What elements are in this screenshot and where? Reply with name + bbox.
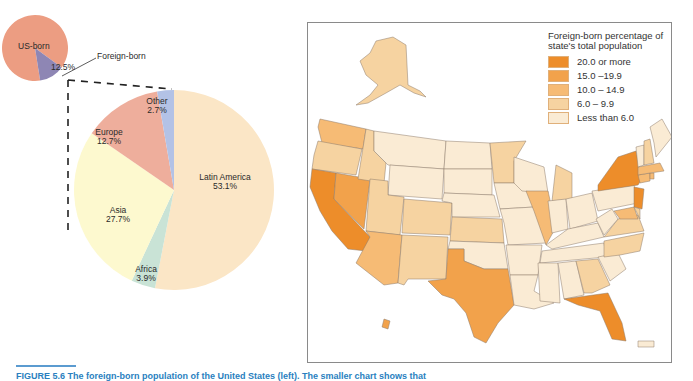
slice-value-latin-america: 53.1%: [213, 181, 238, 191]
legend-swatch: [548, 112, 569, 124]
legend-title: Foreign-born percentage of state's total…: [548, 31, 668, 51]
state-wyoming: [388, 165, 444, 199]
state-rhode-island: [650, 173, 654, 179]
state-alaska: [356, 37, 426, 105]
state-arkansas: [506, 245, 542, 275]
legend-item-15-0-19-9: 15.0 –19.9: [548, 69, 668, 82]
legend-item-10-0-14-9: 10.0 – 14.9: [548, 83, 668, 96]
slice-value-europe: 12.7%: [97, 136, 122, 146]
caption-rule: [16, 365, 76, 367]
state-north-carolina: [604, 233, 644, 257]
state-michigan: [552, 165, 572, 201]
pie-charts: Foreign-born US-born 12.5% Latin America…: [0, 0, 300, 330]
big-pie-chart: [74, 90, 274, 290]
slice-value-other: 2.7%: [147, 105, 167, 115]
state-new-mexico: [398, 235, 448, 285]
map-legend: Foreign-born percentage of state's total…: [548, 31, 668, 125]
state-colorado: [402, 199, 452, 235]
legend-label: Less than 6.0: [577, 112, 634, 123]
state-hawaii: [382, 319, 390, 329]
figure-caption: FIGURE 5.6 The foreign-born population o…: [16, 371, 426, 381]
choropleth-map: Foreign-born percentage of state's total…: [307, 22, 672, 363]
legend-item-less-than-6-0: Less than 6.0: [548, 111, 668, 124]
state-kansas: [450, 217, 504, 243]
legend-swatch: [548, 70, 569, 82]
state-new-jersey: [634, 187, 644, 209]
legend-label: 6.0 – 9.9: [577, 98, 614, 109]
state-maryland: [614, 207, 638, 219]
state-ohio: [566, 193, 598, 229]
state-south-dakota: [444, 169, 492, 195]
state-new-york: [598, 151, 642, 191]
legend-item-6-0-9-9: 6.0 – 9.9: [548, 97, 668, 110]
state-mississippi: [538, 263, 560, 303]
legend-label: 20.0 or more: [577, 56, 631, 67]
legend-label: 10.0 – 14.9: [577, 84, 625, 95]
us-born-label: US-born: [18, 41, 50, 51]
legend-swatch: [548, 84, 569, 96]
legend-label: 15.0 –19.9: [577, 70, 622, 81]
legend-item-20-0-or-more: 20.0 or more: [548, 55, 668, 68]
slice-value-africa: 3.9%: [136, 273, 156, 283]
legend-swatch: [548, 56, 569, 68]
state-florida: [564, 293, 626, 341]
foreign-born-callout: Foreign-born: [97, 51, 146, 61]
legend-swatch: [548, 98, 569, 110]
state-puerto-rico: [638, 341, 654, 347]
state-wisconsin: [514, 157, 548, 193]
slice-value-asia: 27.7%: [106, 214, 131, 224]
state-new-hampshire: [644, 139, 654, 165]
state-north-dakota: [444, 141, 492, 169]
foreign-born-pct-label: 12.5%: [51, 62, 76, 72]
